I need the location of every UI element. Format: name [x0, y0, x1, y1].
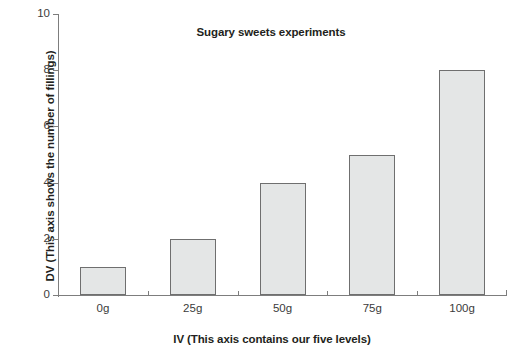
x-tick-mark	[417, 291, 418, 296]
y-tick-label: 0	[24, 289, 50, 301]
plot-area	[58, 14, 507, 296]
y-tick-mark	[53, 239, 58, 240]
bar	[349, 155, 395, 296]
bar-chart: DV (This axis shows the number of fillin…	[0, 0, 520, 355]
y-tick-mark	[53, 126, 58, 127]
y-tick-label: 4	[24, 177, 50, 189]
bar	[439, 70, 485, 295]
y-tick-mark	[53, 70, 58, 71]
y-tick-mark	[53, 183, 58, 184]
chart-title: Sugary sweets experiments	[0, 26, 520, 38]
x-tick-mark	[327, 291, 328, 296]
bar	[170, 239, 216, 295]
x-tick-label: 100g	[432, 302, 492, 314]
y-tick-label: 6	[24, 120, 50, 132]
x-tick-label: 0g	[73, 302, 133, 314]
x-axis-title: IV (This axis contains our five levels)	[0, 333, 520, 345]
bar	[260, 183, 306, 295]
x-tick-label: 50g	[253, 302, 313, 314]
x-tick-label: 75g	[342, 302, 402, 314]
y-tick-mark	[53, 14, 58, 15]
x-tick-mark	[238, 291, 239, 296]
chart-title-text: Sugary sweets experiments	[197, 26, 346, 38]
y-tick-label: 2	[24, 233, 50, 245]
bar	[80, 267, 126, 295]
bars-layer	[58, 14, 507, 296]
x-tick-label: 25g	[163, 302, 223, 314]
x-tick-mark	[148, 291, 149, 296]
x-tick-mark	[58, 291, 59, 296]
x-axis-title-text: IV (This axis contains our five levels)	[173, 333, 370, 345]
x-tick-mark	[506, 290, 507, 295]
y-tick-label: 10	[24, 8, 50, 20]
y-tick-label: 8	[24, 64, 50, 76]
y-axis-tick-labels: 10 8 6 4 2 0	[22, 0, 50, 355]
